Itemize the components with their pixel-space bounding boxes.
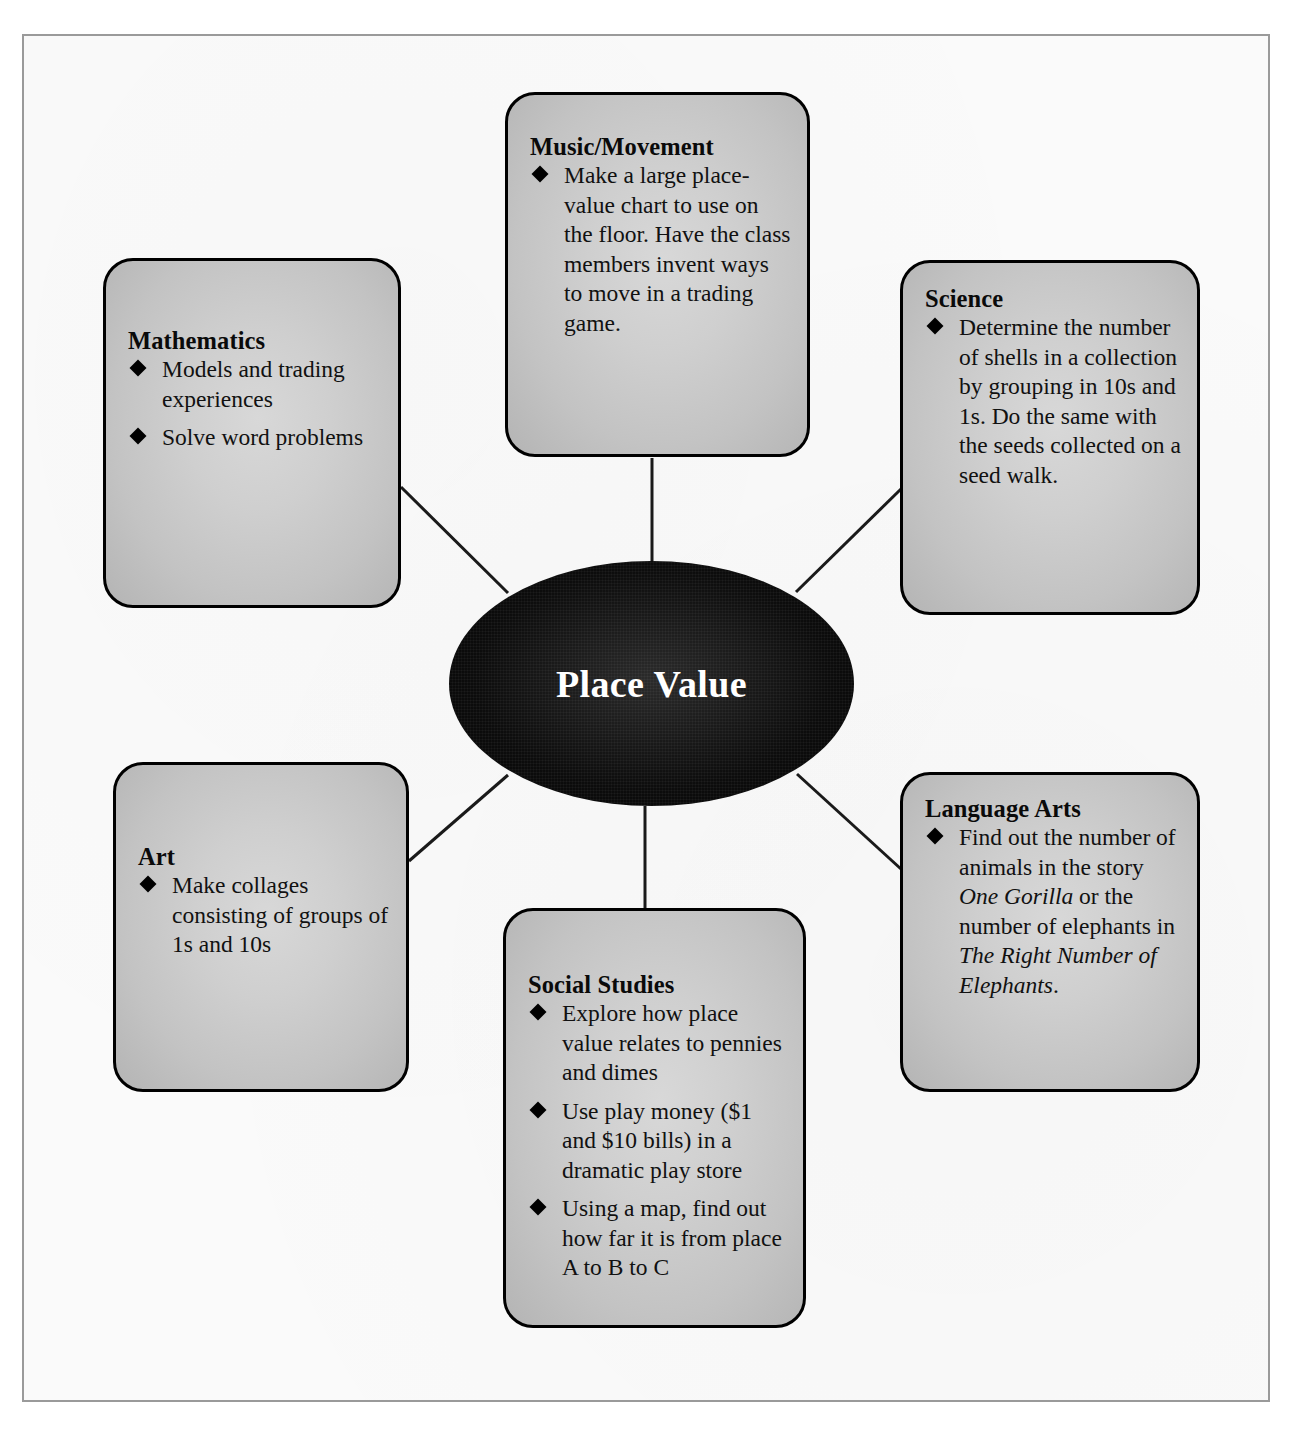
list-item: Models and trading experiences <box>128 355 382 414</box>
node-science-bullets: Determine the number of shells in a coll… <box>925 313 1181 490</box>
center-node-place-value[interactable]: Place Value <box>449 561 854 806</box>
diamond-bullet-icon <box>530 1004 547 1021</box>
diamond-bullet-icon <box>140 876 157 893</box>
list-item: Using a map, find out how far it is from… <box>528 1194 787 1282</box>
bullet-text: Make a large place-value chart to use on… <box>564 162 790 335</box>
node-mathematics-title: Mathematics <box>128 327 382 354</box>
diagram-page: Place Value Mathematics Models and tradi… <box>0 0 1303 1447</box>
node-science-title: Science <box>925 285 1181 312</box>
node-language-arts[interactable]: Language Arts Find out the number of ani… <box>900 772 1200 1092</box>
list-item: Make collages consisting of groups of 1s… <box>138 871 390 959</box>
node-language-arts-bullets: Find out the number of animals in the st… <box>925 823 1181 1000</box>
node-art[interactable]: Art Make collages consisting of groups o… <box>113 762 409 1092</box>
bullet-text: Explore how place value relates to penni… <box>562 1000 782 1085</box>
center-node-label: Place Value <box>556 662 747 706</box>
connector-center-mathematics <box>401 487 508 593</box>
diamond-bullet-icon <box>927 318 944 335</box>
node-science[interactable]: Science Determine the number of shells i… <box>900 260 1200 615</box>
diamond-bullet-icon <box>532 166 549 183</box>
list-item: Solve word problems <box>128 423 382 452</box>
node-music-movement-bullets: Make a large place-value chart to use on… <box>530 161 791 338</box>
node-social-studies-bullets: Explore how place value relates to penni… <box>528 999 787 1282</box>
list-item: Explore how place value relates to penni… <box>528 999 787 1087</box>
connector-center-language <box>797 774 901 869</box>
list-item: Make a large place-value chart to use on… <box>530 161 791 338</box>
node-mathematics-bullets: Models and trading experiences Solve wor… <box>128 355 382 452</box>
node-art-title: Art <box>138 843 390 870</box>
diamond-bullet-icon <box>130 360 147 377</box>
bullet-text: Find out the number of animals in the st… <box>959 824 1176 997</box>
node-music-movement-title: Music/Movement <box>530 133 791 160</box>
connector-center-science <box>796 489 901 592</box>
bullet-text: Solve word problems <box>162 424 363 450</box>
node-art-bullets: Make collages consisting of groups of 1s… <box>138 871 390 959</box>
diamond-bullet-icon <box>530 1199 547 1216</box>
diamond-bullet-icon <box>530 1101 547 1118</box>
bullet-text: Make collages consisting of groups of 1s… <box>172 872 388 957</box>
node-social-studies-title: Social Studies <box>528 971 787 998</box>
node-social-studies[interactable]: Social Studies Explore how place value r… <box>503 908 806 1328</box>
list-item: Determine the number of shells in a coll… <box>925 313 1181 490</box>
diamond-bullet-icon <box>927 828 944 845</box>
list-item: Use play money ($1 and $10 bills) in a d… <box>528 1097 787 1185</box>
bullet-text: Use play money ($1 and $10 bills) in a d… <box>562 1098 752 1183</box>
diamond-bullet-icon <box>130 428 147 445</box>
node-music-movement[interactable]: Music/Movement Make a large place-value … <box>505 92 810 457</box>
connector-center-art <box>409 775 508 861</box>
list-item: Find out the number of animals in the st… <box>925 823 1181 1000</box>
node-mathematics[interactable]: Mathematics Models and trading experienc… <box>103 258 401 608</box>
node-language-arts-title: Language Arts <box>925 795 1181 822</box>
bullet-text: Using a map, find out how far it is from… <box>562 1195 782 1280</box>
bullet-text: Models and trading experiences <box>162 356 345 411</box>
bullet-text: Determine the number of shells in a coll… <box>959 314 1181 487</box>
